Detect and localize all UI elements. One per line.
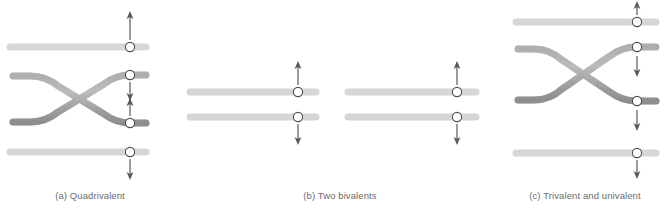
arrow-up-chromosome-3: [127, 98, 134, 116]
centromere: [452, 112, 461, 121]
arrow-up-chromosome-1: [127, 11, 134, 40]
arrow-up-chromosome-3: [454, 61, 461, 85]
panel-quadrivalent: (a) Quadrivalent: [0, 0, 180, 213]
centromere: [632, 96, 641, 105]
chromosome-2: [190, 112, 316, 121]
two-bivalents-diagram: [180, 0, 500, 190]
arrow-down-chromosome-3: [634, 110, 641, 131]
chromosome-3: [348, 87, 476, 96]
centromere: [293, 112, 302, 121]
panel-b-caption: (b) Two bivalents: [180, 190, 500, 201]
chromosome-3: [518, 47, 656, 100]
panel-two-bivalents: (b) Two bivalents: [180, 0, 500, 213]
quadrivalent-diagram: [0, 0, 180, 190]
centromere: [452, 87, 461, 96]
chromatid-shade: [518, 47, 656, 100]
chromosome-1: [516, 17, 656, 26]
arrow-up-chromosome-1: [295, 61, 302, 85]
chromosome-1: [10, 42, 146, 51]
panel-trivalent-and-univalent: (c) Trivalent and univalent: [500, 0, 670, 213]
trivalent-univalent-diagram: [500, 0, 670, 190]
centromere: [632, 42, 641, 51]
chromosome-1: [190, 87, 316, 96]
centromere: [632, 17, 641, 26]
bivalent-left: [190, 61, 316, 145]
chromosome-4: [10, 147, 146, 156]
bivalent-right: [348, 61, 476, 145]
arrow-down-chromosome-4: [454, 124, 461, 145]
centromere: [293, 87, 302, 96]
centromere: [125, 70, 134, 79]
chromosome-4: [348, 112, 476, 121]
panel-c-caption: (c) Trivalent and univalent: [500, 190, 670, 201]
panel-a-caption: (a) Quadrivalent: [0, 190, 180, 201]
chromosome-3: [13, 75, 146, 122]
arrow-up-chromosome-1: [634, 1, 641, 15]
centromere: [125, 147, 134, 156]
arrow-down-chromosome-4: [127, 159, 134, 180]
chromosome-4: [516, 148, 656, 157]
arrow-down-chromosome-2: [634, 56, 641, 77]
centromere: [632, 148, 641, 157]
centromere: [125, 42, 134, 51]
arrow-down-chromosome-2: [295, 124, 302, 145]
centromere: [125, 118, 134, 127]
arrow-down-chromosome-4: [634, 160, 641, 179]
chromatid-shade: [13, 75, 146, 122]
